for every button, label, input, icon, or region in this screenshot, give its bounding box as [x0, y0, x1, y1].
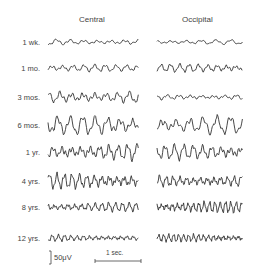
amplitude-scale-label: 50μV [54, 253, 72, 262]
time-scale-bar [94, 258, 142, 264]
time-scale-label: 1 sec. [106, 249, 123, 256]
eeg-traces [0, 0, 258, 274]
